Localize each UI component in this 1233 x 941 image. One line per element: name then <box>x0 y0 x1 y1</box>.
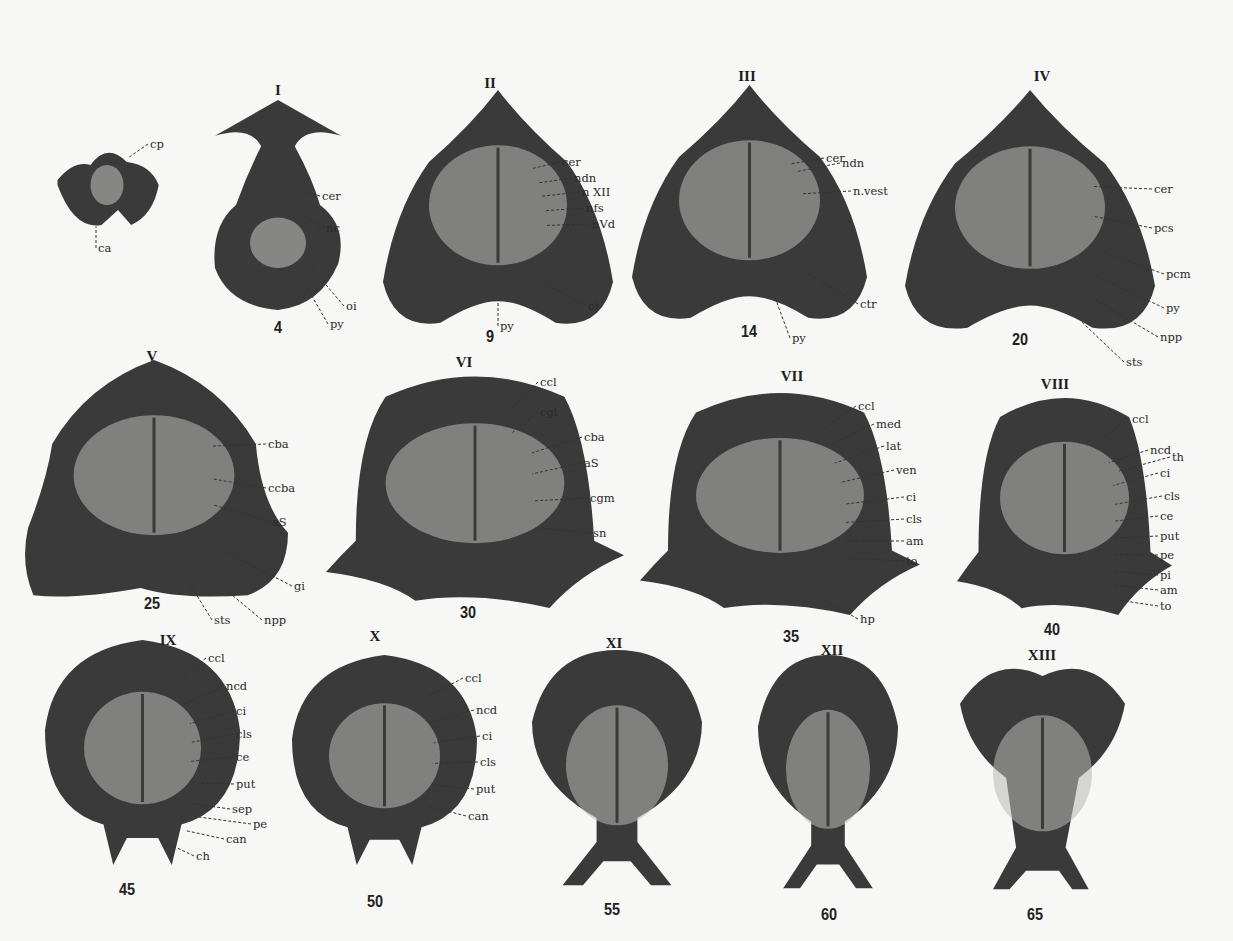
anatomy-label: ca <box>98 242 111 254</box>
anatomy-label: cgm <box>590 492 615 504</box>
anatomy-label: ncd <box>226 680 247 692</box>
section-roman-label: VIII <box>1025 376 1085 393</box>
section-number: 30 <box>447 603 490 623</box>
anatomy-label: am <box>906 535 924 547</box>
anatomy-label: cls <box>1164 490 1180 502</box>
anatomy-label: ndn <box>842 157 864 169</box>
section-roman-label: I <box>248 82 308 99</box>
anatomy-label: cba <box>584 431 605 443</box>
anatomy-label: ccl <box>540 376 557 388</box>
anatomy-label: lat <box>886 440 901 452</box>
anatomy-label: py <box>792 332 806 344</box>
anatomy-label: ci <box>1160 467 1170 479</box>
section-roman-label: II <box>460 75 520 92</box>
section-outline <box>52 140 162 240</box>
anatomy-label: put <box>236 778 255 790</box>
anatomy-label: ccl <box>858 400 875 412</box>
tissue-outline <box>214 100 341 310</box>
anatomy-label: ch <box>196 850 210 862</box>
anatomy-label: sts <box>214 614 230 626</box>
anatomy-label: ccba <box>268 482 295 494</box>
section-outline <box>960 662 1125 894</box>
anatomy-label: ci <box>482 730 492 742</box>
anatomy-label: ce <box>236 751 249 763</box>
leader-line <box>0 0 1 1</box>
anatomy-label: cls <box>236 728 252 740</box>
anatomy-label: py <box>330 318 344 330</box>
anatomy-label: ncd <box>1150 444 1171 456</box>
anatomy-label: nc <box>326 222 340 234</box>
anatomy-label: cls <box>906 513 922 525</box>
anatomy-label: py <box>1166 302 1180 314</box>
anatomy-label: ctr <box>860 298 877 310</box>
anatomy-label: cba <box>268 438 289 450</box>
anatomy-label: sts <box>1126 356 1142 368</box>
section-outline <box>905 90 1155 335</box>
section-outline <box>383 90 613 330</box>
section-roman-label: VI <box>434 354 494 371</box>
section-roman-label: III <box>717 68 777 85</box>
section-number: 4 <box>257 318 300 338</box>
section-outline <box>758 655 898 893</box>
anatomy-label: ncd <box>476 704 497 716</box>
section-number: 60 <box>808 905 851 925</box>
anatomy-label: oi <box>346 300 357 312</box>
anatomy-label: pi <box>1160 569 1171 581</box>
anatomy-label: oi <box>588 300 599 312</box>
section-number: 55 <box>591 900 634 920</box>
anatomy-label: put <box>476 783 495 795</box>
section-outline <box>632 85 867 325</box>
section-number: 20 <box>999 330 1042 350</box>
anatomy-label: pcm <box>1166 268 1191 280</box>
anatomy-label: n XII <box>582 186 610 198</box>
brainstem-core <box>91 165 124 205</box>
section-roman-label: VII <box>762 368 822 385</box>
anatomy-label: aS <box>272 516 287 528</box>
anatomy-label: cls <box>480 756 496 768</box>
anatomy-label: npp <box>264 614 286 626</box>
section-number: 45 <box>106 880 149 900</box>
anatomy-label: can <box>468 810 489 822</box>
anatomy-label: ccl <box>465 672 482 684</box>
section-number: 50 <box>354 892 397 912</box>
section-roman-label: XI <box>584 635 644 652</box>
anatomy-label: pcs <box>1154 222 1174 234</box>
anatomy-label: cer <box>562 156 581 168</box>
anatomy-label: ccl <box>208 652 225 664</box>
section-roman-label: IV <box>1012 68 1072 85</box>
section-roman-label: V <box>122 348 182 365</box>
section-outline <box>208 100 348 310</box>
anatomy-label: ccl <box>1132 413 1149 425</box>
section-roman-label: IX <box>138 632 198 649</box>
anatomy-label: gi <box>294 580 305 592</box>
anatomy-label: nVd <box>592 218 615 230</box>
anatomy-label: pe <box>1160 549 1174 561</box>
anatomy-label: py <box>500 320 514 332</box>
section-outline <box>20 360 288 600</box>
section-roman-label: XIII <box>1012 647 1072 664</box>
anatomy-label: sn <box>593 527 606 539</box>
anatomy-label: can <box>226 833 247 845</box>
anatomy-label: ci <box>906 491 916 503</box>
anatomy-label: cgl <box>540 406 557 418</box>
anatomy-label: n.vest <box>853 185 888 197</box>
anatomy-label: nfs <box>586 202 604 214</box>
anatomy-label: am <box>1160 584 1178 596</box>
anatomy-label: sep <box>232 803 252 815</box>
anatomy-label: ndn <box>574 172 596 184</box>
section-outline <box>45 640 240 865</box>
section-number: 14 <box>728 322 771 342</box>
figure-plate: cpcaI4cerncoipyII9cerndnn XIInfsnVdoipyI… <box>0 0 1233 941</box>
anatomy-label: pe <box>253 818 267 830</box>
anatomy-label: cp <box>150 138 164 150</box>
anatomy-label: ci <box>236 705 246 717</box>
anatomy-label: to <box>906 555 918 567</box>
section-number: 25 <box>131 594 174 614</box>
section-number: 40 <box>1031 620 1074 640</box>
anatomy-label: npp <box>1160 331 1182 343</box>
anatomy-label: cer <box>1154 183 1173 195</box>
anatomy-label: to <box>1160 600 1172 612</box>
section-roman-label: XII <box>802 642 862 659</box>
section-outline <box>292 655 477 865</box>
anatomy-label: hp <box>860 613 875 625</box>
